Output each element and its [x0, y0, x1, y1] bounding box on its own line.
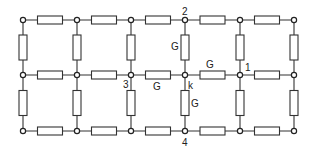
- conductance-label: G: [206, 59, 214, 70]
- conductance-label: G: [153, 81, 161, 92]
- resistor-vertical-r0-c0: [19, 35, 27, 60]
- resistor-vertical-r1-c3: [181, 91, 189, 116]
- node-r2-c0: [20, 128, 25, 133]
- node-r1-c1: [74, 72, 79, 77]
- node-label: 2: [182, 6, 188, 17]
- node-r1-c3: [182, 72, 187, 77]
- resistor-horizontal-r2-c1: [92, 127, 117, 135]
- resistor-horizontal-r0-c3: [200, 16, 225, 24]
- resistor-vertical-r1-c1: [73, 91, 81, 116]
- resistor-horizontal-r0-c0: [38, 16, 63, 24]
- resistor-vertical-r0-c2: [127, 35, 135, 60]
- node-r2-c3: [182, 128, 187, 133]
- resistor-horizontal-r0-c1: [92, 16, 117, 24]
- resistor-vertical-r0-c5: [290, 35, 298, 60]
- node-label: 3: [123, 79, 129, 90]
- node-r0-c0: [20, 17, 25, 22]
- resistor-horizontal-r1-c4: [255, 71, 280, 79]
- resistors: [19, 16, 298, 135]
- resistor-horizontal-r1-c0: [38, 71, 63, 79]
- resistor-grid-diagram: 213k4GGGG: [0, 0, 314, 152]
- resistor-horizontal-r1-c3: [200, 71, 225, 79]
- node-label: k: [188, 80, 194, 91]
- node-r0-c4: [237, 17, 242, 22]
- node-r2-c4: [237, 128, 242, 133]
- resistor-vertical-r0-c3: [181, 35, 189, 60]
- node-r1-c4: [237, 72, 242, 77]
- node-r0-c5: [291, 17, 296, 22]
- node-r1-c0: [20, 72, 25, 77]
- node-r2-c1: [74, 128, 79, 133]
- node-r0-c3: [182, 17, 187, 22]
- resistor-vertical-r1-c2: [127, 91, 135, 116]
- node-label: 1: [245, 62, 251, 73]
- conductance-label: G: [171, 41, 179, 52]
- resistor-vertical-r1-c4: [236, 91, 244, 116]
- node-r0-c2: [128, 17, 133, 22]
- resistor-horizontal-r0-c4: [255, 16, 280, 24]
- resistor-vertical-r1-c5: [290, 91, 298, 116]
- node-r2-c2: [128, 128, 133, 133]
- resistor-horizontal-r2-c2: [146, 127, 171, 135]
- resistor-vertical-r1-c0: [19, 91, 27, 116]
- node-label: 4: [182, 137, 188, 148]
- resistor-vertical-r0-c4: [236, 35, 244, 60]
- resistor-horizontal-r1-c2: [146, 71, 171, 79]
- node-r1-c2: [128, 72, 133, 77]
- conductance-label: G: [191, 98, 199, 109]
- resistor-horizontal-r1-c1: [92, 71, 117, 79]
- node-r0-c1: [74, 17, 79, 22]
- resistor-vertical-r0-c1: [73, 35, 81, 60]
- resistor-horizontal-r2-c0: [38, 127, 63, 135]
- resistor-horizontal-r0-c2: [146, 16, 171, 24]
- resistor-horizontal-r2-c4: [255, 127, 280, 135]
- node-r1-c5: [291, 72, 296, 77]
- node-r2-c5: [291, 128, 296, 133]
- resistor-horizontal-r2-c3: [200, 127, 225, 135]
